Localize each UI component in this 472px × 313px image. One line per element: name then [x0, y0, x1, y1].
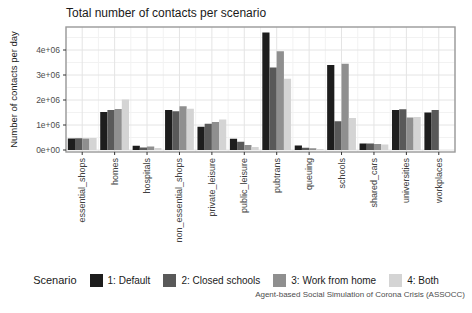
bar	[251, 147, 258, 150]
bar	[262, 33, 269, 151]
bar	[424, 113, 431, 151]
x-tick-label: universities	[401, 158, 411, 204]
bar	[122, 100, 129, 151]
x-tick-label: shared_cars	[369, 158, 379, 208]
bar	[374, 144, 381, 150]
bar	[89, 138, 96, 150]
x-tick-label: non_essential_shops	[174, 158, 184, 243]
bar	[327, 65, 334, 150]
legend-entry-label: 1: Default	[108, 275, 151, 286]
x-tick-label: queuing	[304, 158, 314, 190]
legend-entry: 1: Default	[90, 274, 151, 287]
bar	[381, 145, 388, 151]
bar	[295, 146, 302, 151]
bar	[179, 106, 186, 150]
bar	[219, 120, 226, 151]
bar	[406, 118, 413, 151]
legend: Scenario 1: Default2: Closed schools3: W…	[0, 270, 472, 290]
bar	[172, 111, 179, 150]
y-tick-label: 2e+06	[36, 95, 60, 105]
x-tick-label: schools	[337, 158, 347, 189]
bar	[270, 68, 277, 151]
bar	[197, 127, 204, 150]
bar	[367, 144, 374, 151]
bar	[237, 142, 244, 150]
x-tick-label: workplaces	[434, 158, 444, 205]
bar	[68, 139, 75, 151]
legend-swatch	[273, 274, 286, 287]
bar	[165, 110, 172, 150]
bar	[82, 139, 89, 151]
bar	[277, 51, 284, 150]
bar	[342, 64, 349, 150]
bar	[360, 144, 367, 151]
bar	[334, 121, 341, 150]
legend-swatch	[389, 274, 402, 287]
bar	[302, 148, 309, 150]
y-tick-label: 4e+06	[36, 45, 60, 55]
bar	[392, 110, 399, 150]
legend-entry-label: 2: Closed schools	[181, 275, 260, 286]
bar	[244, 145, 251, 150]
bar	[75, 138, 82, 150]
legend-entry: 2: Closed schools	[163, 274, 260, 287]
bar	[414, 117, 421, 150]
bar	[115, 109, 122, 150]
bar	[309, 148, 316, 150]
legend-swatch	[90, 274, 103, 287]
legend-entry-label: 3: Work from home	[291, 275, 376, 286]
legend-entry: 3: Work from home	[273, 274, 376, 287]
bar	[284, 79, 291, 150]
legend-entry: 4: Both	[389, 274, 439, 287]
bar	[316, 149, 323, 150]
bar	[100, 112, 107, 150]
bar-chart: 0e+001e+062e+063e+064e+06essential_shops…	[0, 0, 472, 268]
x-tick-label: public_leisure	[239, 158, 249, 213]
bar	[399, 109, 406, 150]
x-tick-label: homes	[110, 158, 120, 186]
chart-caption: Agent-based Social Simulation of Corona …	[255, 290, 465, 299]
bar	[140, 148, 147, 151]
bar	[187, 109, 194, 150]
bar	[154, 148, 161, 150]
y-tick-label: 0e+00	[36, 145, 60, 155]
y-tick-label: 3e+06	[36, 70, 60, 80]
legend-entry-label: 4: Both	[407, 275, 439, 286]
legend-title: Scenario	[33, 274, 76, 286]
bar	[349, 118, 356, 150]
bar	[205, 124, 212, 150]
bar	[230, 139, 237, 150]
x-tick-label: essential_shops	[77, 158, 87, 223]
x-tick-label: pubtrans	[272, 158, 282, 194]
bar	[133, 146, 140, 150]
bar	[212, 122, 219, 150]
bar	[147, 147, 154, 151]
x-tick-label: private_leisure	[207, 158, 217, 217]
y-tick-label: 1e+06	[36, 120, 60, 130]
bar	[432, 110, 439, 150]
legend-swatch	[163, 274, 176, 287]
bar	[107, 110, 114, 150]
x-tick-label: hospitals	[142, 158, 152, 194]
